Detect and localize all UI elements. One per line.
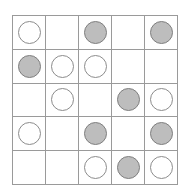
open-circle-icon [84, 156, 107, 179]
filled-circle-icon [117, 156, 140, 179]
grid-cell-r4-c1 [13, 117, 46, 151]
open-circle-icon [84, 55, 107, 78]
grid-cell-r3-c5 [145, 84, 178, 118]
grid-cell-r4-c5 [145, 117, 178, 151]
grid-cell-r2-c4 [112, 50, 145, 84]
open-circle-icon [51, 55, 74, 78]
filled-circle-icon [150, 21, 173, 44]
grid-cell-r2-c2 [46, 50, 79, 84]
filled-circle-icon [18, 55, 41, 78]
filled-circle-icon [84, 122, 107, 145]
open-circle-icon [18, 21, 41, 44]
open-circle-icon [150, 88, 173, 111]
grid-cell-r2-c1 [13, 50, 46, 84]
grid-cell-r1-c3 [79, 16, 112, 50]
grid-cell-r3-c4 [112, 84, 145, 118]
filled-circle-icon [117, 88, 140, 111]
open-circle-icon [18, 122, 41, 145]
open-circle-icon [51, 88, 74, 111]
grid-cell-r5-c4 [112, 151, 145, 185]
grid-cell-r5-c2 [46, 151, 79, 185]
grid-cell-r1-c5 [145, 16, 178, 50]
grid-cell-r2-c5 [145, 50, 178, 84]
grid-cell-r3-c1 [13, 84, 46, 118]
grid-cell-r3-c3 [79, 84, 112, 118]
grid-cell-r3-c2 [46, 84, 79, 118]
grid-cell-r1-c1 [13, 16, 46, 50]
grid-cell-r1-c2 [46, 16, 79, 50]
grid-cell-r1-c4 [112, 16, 145, 50]
grid-cell-r4-c3 [79, 117, 112, 151]
filled-circle-icon [84, 21, 107, 44]
circle-grid [12, 15, 178, 185]
grid-cell-r2-c3 [79, 50, 112, 84]
grid-cell-r5-c1 [13, 151, 46, 185]
open-circle-icon [150, 156, 173, 179]
grid-cell-r5-c3 [79, 151, 112, 185]
grid-cell-r5-c5 [145, 151, 178, 185]
grid-cell-r4-c4 [112, 117, 145, 151]
filled-circle-icon [150, 122, 173, 145]
grid-cell-r4-c2 [46, 117, 79, 151]
